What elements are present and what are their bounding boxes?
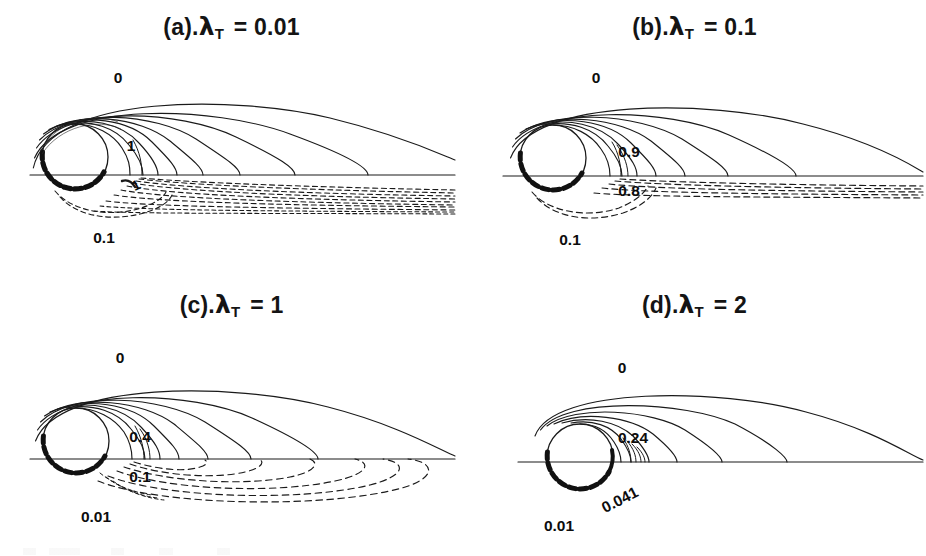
contour-label: 0.1 <box>129 468 151 486</box>
contour-label: 0 <box>592 69 601 87</box>
panel-b: (b).λT= 0.1 <box>463 0 926 278</box>
contour-solid <box>543 124 622 176</box>
contour-dashed-loop <box>117 459 365 489</box>
contour-dashed-loop <box>108 459 399 496</box>
contour-label: 0 <box>114 69 123 87</box>
contour-label: 0 <box>116 349 125 367</box>
contour-solid <box>75 124 130 175</box>
contour-solid <box>553 125 610 176</box>
cylinder-surface-solid-arc <box>609 450 613 472</box>
cylinder-surface-dashed-arc <box>520 153 582 190</box>
contour-label: 0.8 <box>618 182 640 200</box>
contour-solid <box>35 113 369 175</box>
panel-a: (a).λT= 0.01 <box>0 0 463 278</box>
contour-dashed <box>594 193 923 198</box>
panel-d-plot <box>463 278 926 556</box>
contour-solid-outer <box>33 104 455 168</box>
contour-solid <box>554 417 677 462</box>
cylinder-surface-dashed-arc <box>42 152 104 189</box>
contour-label: 1 <box>127 137 136 155</box>
contour-label: 0.4 <box>129 428 151 446</box>
panel-b-plot <box>463 0 926 278</box>
contour-figure: (a).λT= 0.01 <box>0 0 926 556</box>
contour-label: 0.01 <box>544 517 574 535</box>
contour-solid <box>520 119 685 176</box>
contour-label: 0.9 <box>618 143 640 161</box>
contour-solid <box>580 424 621 462</box>
contour-solid-outer <box>36 391 456 456</box>
contour-label: 0.24 <box>618 429 648 447</box>
cylinder-surface-dashed-arc <box>547 452 609 489</box>
panel-d: (d).λT= 2 <box>463 278 926 556</box>
contour-solid <box>50 404 179 459</box>
contour-dashed <box>620 179 923 186</box>
contour-label: 0.1 <box>93 229 115 247</box>
contour-label: 0 <box>618 359 627 377</box>
panel-c: (c).λT= 1 <box>0 278 463 556</box>
panel-c-plot <box>0 278 463 556</box>
contour-label: 0.01 <box>81 508 111 526</box>
contour-solid-outer <box>535 396 923 460</box>
panel-a-plot <box>0 0 463 278</box>
contour-label: 0.1 <box>559 231 581 249</box>
contour-solid <box>40 117 241 175</box>
contour-solid <box>44 119 204 175</box>
cylinder-surface-dashed-arc <box>43 436 105 473</box>
scan-edge-artifact <box>23 548 243 555</box>
contour-solid <box>76 408 132 459</box>
